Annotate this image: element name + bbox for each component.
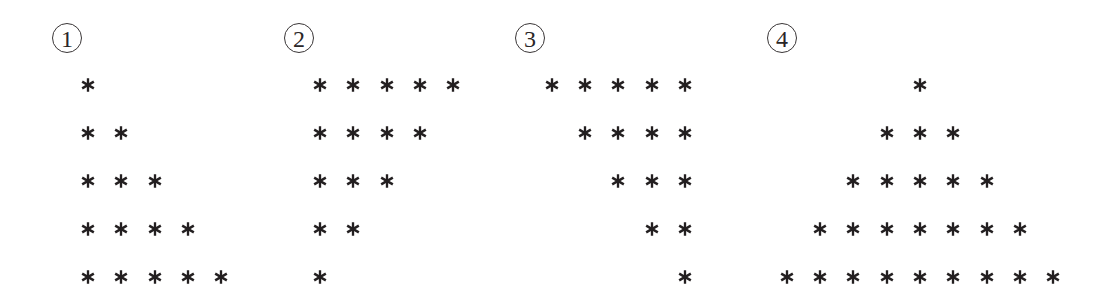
asterisk-icon [944,220,962,238]
asterisk-icon [112,172,130,190]
asterisk-icon [676,268,694,286]
asterisk-icon [344,220,362,238]
asterisk-icon [79,268,97,286]
asterisk-icon [112,124,130,142]
asterisk-icon [79,220,97,238]
asterisk-icon [676,76,694,94]
asterisk-icon [344,76,362,94]
asterisk-icon [311,172,329,190]
asterisk-icon [944,268,962,286]
asterisk-icon [146,220,164,238]
asterisk-icon [112,268,130,286]
asterisk-patterns-figure: 1234 [0,0,1120,304]
asterisk-icon [79,172,97,190]
circled-number-label: 1 [52,23,82,53]
asterisk-icon [609,124,627,142]
asterisk-icon [444,76,462,94]
asterisk-icon [311,76,329,94]
asterisk-icon [911,172,929,190]
asterisk-icon [944,124,962,142]
asterisk-icon [878,172,896,190]
asterisk-icon [411,124,429,142]
label-number: 2 [293,27,305,51]
asterisk-icon [676,124,694,142]
asterisk-icon [1011,268,1029,286]
circled-number-label: 4 [767,23,797,53]
asterisk-icon [844,268,862,286]
asterisk-icon [411,76,429,94]
asterisk-icon [609,172,627,190]
asterisk-icon [978,268,996,286]
asterisk-icon [911,124,929,142]
asterisk-icon [179,268,197,286]
asterisk-icon [212,268,230,286]
asterisk-icon [344,124,362,142]
label-number: 3 [524,27,536,51]
asterisk-icon [79,76,97,94]
asterisk-icon [878,220,896,238]
asterisk-icon [378,124,396,142]
asterisk-icon [643,124,661,142]
circled-number-label: 2 [284,23,314,53]
asterisk-icon [146,172,164,190]
asterisk-icon [643,76,661,94]
circled-number-label: 3 [515,23,545,53]
asterisk-icon [179,220,197,238]
asterisk-icon [576,124,594,142]
asterisk-icon [79,124,97,142]
asterisk-icon [676,172,694,190]
asterisk-icon [911,268,929,286]
asterisk-icon [944,172,962,190]
asterisk-icon [311,268,329,286]
asterisk-icon [112,220,130,238]
asterisk-icon [543,76,561,94]
asterisk-icon [344,172,362,190]
asterisk-icon [311,124,329,142]
asterisk-icon [878,124,896,142]
asterisk-icon [146,268,164,286]
asterisk-icon [643,220,661,238]
asterisk-icon [844,220,862,238]
asterisk-icon [878,268,896,286]
asterisk-icon [978,172,996,190]
asterisk-icon [378,172,396,190]
label-number: 4 [776,27,788,51]
asterisk-icon [911,220,929,238]
label-number: 1 [61,27,73,51]
asterisk-icon [609,76,627,94]
asterisk-icon [1044,268,1062,286]
asterisk-icon [778,268,796,286]
asterisk-icon [844,172,862,190]
asterisk-icon [676,220,694,238]
asterisk-icon [576,76,594,94]
asterisk-icon [811,220,829,238]
asterisk-icon [1011,220,1029,238]
asterisk-icon [311,220,329,238]
asterisk-icon [378,76,396,94]
asterisk-icon [911,76,929,94]
asterisk-icon [643,172,661,190]
asterisk-icon [978,220,996,238]
asterisk-icon [811,268,829,286]
